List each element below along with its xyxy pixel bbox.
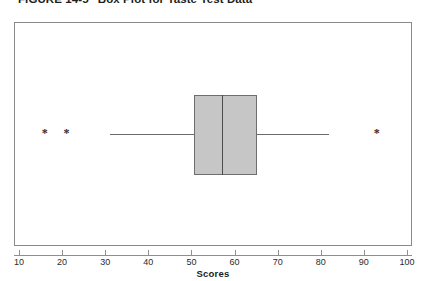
x-tick-label: 90 [359, 257, 369, 267]
x-tick-label: 60 [230, 257, 240, 267]
x-axis-title: Scores [0, 268, 426, 279]
x-tick-label: 70 [273, 257, 283, 267]
plot-frame [14, 22, 412, 246]
x-tick-label: 20 [57, 257, 67, 267]
x-tick-label: 40 [143, 257, 153, 267]
x-tick-label: 10 [14, 257, 24, 267]
x-tick-mark [191, 250, 192, 256]
x-tick-label: 30 [100, 257, 110, 267]
figure-number: FIGURE 14-5 [18, 0, 89, 5]
x-tick-label: 100 [399, 257, 414, 267]
x-tick-mark [148, 250, 149, 256]
x-tick-mark [235, 250, 236, 256]
box-plot-figure: FIGURE 14-5Box Plot for Taste Test Data … [0, 0, 426, 281]
x-axis-line [14, 255, 412, 256]
figure-title: FIGURE 14-5Box Plot for Taste Test Data [18, 0, 252, 5]
figure-title-text: Box Plot for Taste Test Data [98, 0, 252, 5]
x-tick-mark [278, 250, 279, 256]
x-tick-mark [62, 250, 63, 256]
x-tick-label: 80 [316, 257, 326, 267]
x-tick-mark [105, 250, 106, 256]
x-tick-mark [321, 250, 322, 256]
x-tick-mark [19, 250, 20, 256]
x-tick-label: 50 [186, 257, 196, 267]
x-tick-mark [407, 250, 408, 256]
x-tick-mark [364, 250, 365, 256]
